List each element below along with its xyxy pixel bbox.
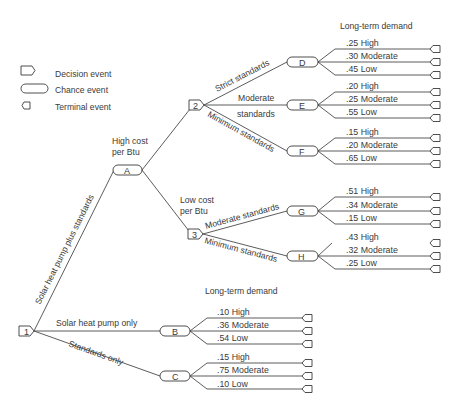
chance-node-H: H — [287, 251, 318, 262]
outcome-D-high: .25 High — [346, 38, 379, 48]
svg-text:C: C — [172, 372, 179, 382]
legend-label-terminal: Terminal event — [55, 102, 111, 112]
legend-label-chance: Chance event — [55, 85, 109, 95]
decision-node-3: 3 — [188, 229, 203, 240]
outcome-H-moderate: .32 Moderate — [346, 245, 398, 255]
terminal-icon — [430, 46, 440, 53]
terminal-icon — [302, 360, 312, 367]
svg-text:F: F — [299, 147, 305, 157]
chance-node-E: E — [287, 100, 318, 111]
outcome-E-low: .55 Low — [346, 107, 377, 117]
outcome-G-moderate: .34 Moderate — [346, 200, 398, 210]
svg-text:1: 1 — [24, 327, 29, 337]
chance-node-D: D — [287, 57, 318, 68]
chance-node-G: G — [287, 206, 318, 217]
svg-text:D: D — [299, 58, 306, 68]
outcome-H-high: .43 High — [346, 232, 379, 242]
branch-label-low-cost: Low cost — [180, 195, 215, 205]
chance-node-B: B — [160, 326, 190, 337]
branch-label-standards-only: Standards only — [67, 338, 125, 367]
outcome-C-low: .10 Low — [217, 379, 248, 389]
outcome-B-high: .10 High — [217, 307, 250, 317]
branch-label-moderate-standards-line2: standards — [237, 109, 275, 119]
outcome-C-high: .15 High — [217, 352, 250, 362]
svg-text:3: 3 — [192, 230, 197, 240]
outcome-H-low: .25 Low — [346, 258, 377, 268]
terminal-icon — [430, 72, 440, 79]
terminal-icon — [430, 253, 440, 260]
terminal-icon — [430, 194, 440, 201]
outcome-E-high: .20 High — [346, 81, 379, 91]
svg-text:B: B — [172, 327, 178, 337]
terminal-icon — [430, 266, 440, 273]
terminal-icon — [430, 115, 440, 122]
branch-label-high-cost-per-btu: per Btu — [112, 147, 140, 157]
terminal-icon — [302, 315, 312, 322]
terminal-icon — [302, 373, 312, 380]
svg-text:E: E — [299, 101, 305, 111]
terminal-icon — [430, 102, 440, 109]
terminal-icon — [430, 59, 440, 66]
chance-node-C: C — [160, 371, 190, 382]
outcome-D-low: .45 Low — [346, 64, 377, 74]
outcome-B-moderate: .36 Moderate — [217, 320, 269, 330]
terminal-icon — [430, 135, 440, 142]
outcome-G-low: .15 Low — [346, 213, 377, 223]
outcome-C-moderate: .75 Moderate — [217, 365, 269, 375]
terminal-icon — [430, 89, 440, 96]
decision-tree-diagram: Decision event Chance event Terminal eve… — [0, 0, 458, 412]
terminal-icon — [302, 386, 312, 393]
terminal-icon — [430, 208, 440, 215]
svg-text:G: G — [298, 207, 305, 217]
branch-label-low-cost-per-btu: per Btu — [180, 206, 208, 216]
outcome-B-low: .54 Low — [217, 333, 248, 343]
terminal-icon — [22, 102, 30, 109]
svg-text:H: H — [298, 252, 305, 262]
decision-node-2: 2 — [189, 100, 204, 111]
decision-node-1: 1 — [19, 326, 34, 337]
long-term-demand-header-top: Long-term demand — [340, 21, 413, 31]
legend: Decision event Chance event Terminal eve… — [21, 66, 112, 112]
terminal-icon — [430, 221, 440, 228]
chance-icon — [21, 84, 48, 93]
terminal-icon — [302, 328, 312, 335]
chance-node-A: A — [113, 165, 142, 176]
long-term-demand-header-bottom: Long-term demand — [205, 286, 278, 296]
legend-label-decision: Decision event — [55, 69, 112, 79]
chance-node-F: F — [287, 146, 318, 157]
branch-label-minimum-standards-3: Minimum standards — [203, 235, 278, 264]
outcome-F-low: .65 Low — [346, 153, 377, 163]
svg-text:2: 2 — [193, 101, 198, 111]
terminal-icon — [302, 341, 312, 348]
outcome-D-moderate: .30 Moderate — [346, 51, 398, 61]
terminal-icon — [430, 148, 440, 155]
decision-icon — [21, 66, 35, 75]
branch-label-solar-only: Solar heat pump only — [56, 318, 138, 328]
outcome-F-moderate: .20 Moderate — [346, 140, 398, 150]
outcome-G-high: .51 High — [346, 186, 379, 196]
branch-label-high-cost: High cost — [112, 136, 148, 146]
outcome-F-high: .15 High — [346, 127, 379, 137]
terminal-icon — [430, 240, 440, 247]
branch-label-solar-plus-standards: Solar heat pump plus standards — [33, 193, 96, 306]
svg-text:A: A — [124, 166, 130, 176]
branch-label-strict-standards: Strict standards — [213, 57, 271, 93]
outcome-E-moderate: .25 Moderate — [346, 94, 398, 104]
branch-label-moderate-standards-line1: Moderate — [238, 93, 275, 103]
terminal-icon — [430, 161, 440, 168]
